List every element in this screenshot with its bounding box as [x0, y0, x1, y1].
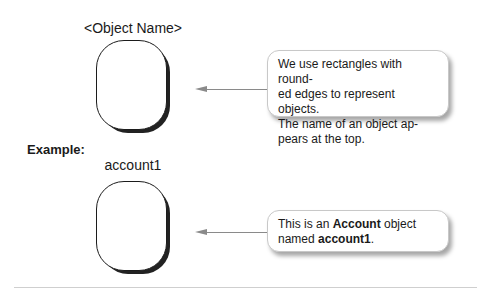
callout-line: pears at the top.: [278, 132, 438, 147]
object-name-label: <Object Name>: [53, 20, 213, 36]
example-heading: Example:: [27, 142, 85, 157]
object-name: account1: [318, 232, 371, 246]
callout-line: named account1.: [278, 232, 438, 247]
callout-line: This is an Account object: [278, 217, 438, 232]
example-object-label: account1: [53, 157, 213, 173]
object-shape: [96, 40, 167, 130]
divider: [14, 287, 477, 288]
pointer-arrow: [200, 89, 268, 90]
example-callout: This is an Account object named account1…: [267, 210, 449, 252]
explanation-callout: We use rectangles with round- ed edges t…: [267, 50, 449, 117]
callout-line: ed edges to represent objects.: [278, 87, 438, 117]
callout-text: object: [381, 217, 416, 231]
example-pointer-arrow: [200, 232, 268, 233]
callout-line: We use rectangles with round-: [278, 57, 438, 87]
callout-text: .: [371, 232, 374, 246]
callout-text: named: [278, 232, 318, 246]
example-object-shape: [96, 181, 167, 271]
callout-line: The name of an object ap-: [278, 117, 438, 132]
callout-text: This is an: [278, 217, 333, 231]
class-name: Account: [333, 217, 381, 231]
